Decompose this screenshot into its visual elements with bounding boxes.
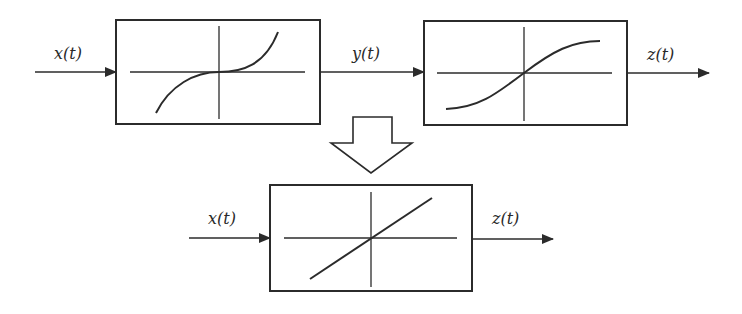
input-label-top: x(t) <box>54 44 82 63</box>
intermediate-label: y(t) <box>351 44 380 63</box>
output-label-bottom: z(t) <box>491 209 519 228</box>
linear-block <box>270 185 472 291</box>
input-label-bottom: x(t) <box>208 209 236 228</box>
sigmoid-curve-icon <box>446 41 600 109</box>
hollow-down-arrow-icon <box>331 117 412 173</box>
cascade-linearization-diagram: x(t) y(t) z(t) x(t) <box>0 0 742 314</box>
bottom-row: x(t) z(t) <box>189 185 553 291</box>
nonlinear-block-1 <box>116 20 320 124</box>
top-row: x(t) y(t) z(t) <box>35 20 709 125</box>
output-label-top: z(t) <box>646 45 674 64</box>
nonlinear-block-2 <box>424 21 627 125</box>
